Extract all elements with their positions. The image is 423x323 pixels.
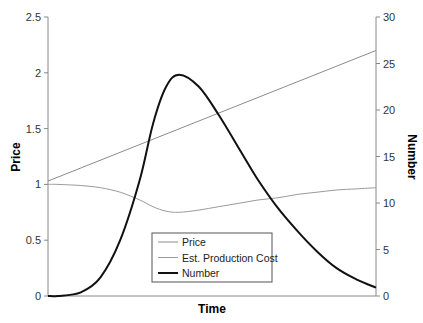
legend-label: Number — [182, 267, 220, 279]
y-left-tick-label: 0 — [35, 290, 41, 302]
y-left-tick-label: 2.5 — [26, 11, 41, 23]
y-right-tick-label: 30 — [383, 11, 395, 23]
y-right-tick-label: 5 — [383, 244, 389, 256]
series-line-est-production-cost — [48, 184, 376, 212]
legend: PriceEst. Production CostNumber — [152, 233, 278, 282]
y-right-tick-label: 0 — [383, 290, 389, 302]
series-line-price — [48, 50, 376, 181]
legend-label: Est. Production Cost — [182, 252, 278, 264]
y-left-tick-label: 0.5 — [26, 234, 41, 246]
y-axis-right-title: Number — [405, 134, 419, 180]
y-right-tick-label: 10 — [383, 197, 395, 209]
y-right-tick-label: 25 — [383, 58, 395, 70]
y-right-tick-label: 20 — [383, 104, 395, 116]
chart: 00.511.522.5051015202530 PriceEst. Produ… — [0, 0, 423, 323]
legend-label: Price — [182, 236, 206, 248]
y-right-tick-label: 15 — [383, 151, 395, 163]
y-axis-left-title: Price — [9, 142, 23, 172]
x-axis-title: Time — [198, 302, 226, 316]
y-left-tick-label: 1.5 — [26, 123, 41, 135]
y-left-tick-label: 1 — [35, 178, 41, 190]
y-left-tick-label: 2 — [35, 67, 41, 79]
